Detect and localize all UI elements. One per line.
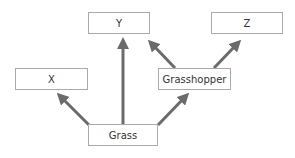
- node-grass: Grass: [88, 124, 158, 146]
- node-y-label: Y: [116, 18, 122, 29]
- node-z: Z: [211, 12, 283, 34]
- node-z-label: Z: [244, 18, 251, 29]
- node-grasshopper-label: Grasshopper: [163, 74, 227, 85]
- node-x-label: X: [48, 74, 55, 85]
- arrow-grasshopper-to-z: [214, 44, 237, 68]
- arrow-grass-to-grasshopper: [158, 97, 185, 125]
- node-y: Y: [88, 12, 150, 34]
- node-grass-label: Grass: [109, 130, 137, 141]
- node-x: X: [15, 68, 88, 90]
- arrow-grass-to-x: [61, 97, 89, 125]
- node-grasshopper: Grasshopper: [158, 68, 231, 90]
- arrow-grasshopper-to-y: [152, 44, 175, 68]
